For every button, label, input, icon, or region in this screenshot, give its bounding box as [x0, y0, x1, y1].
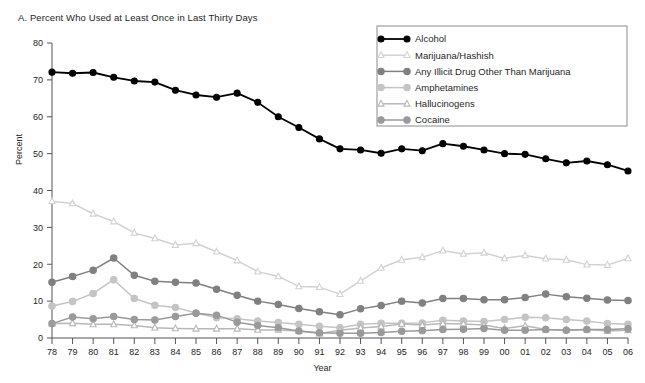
- x-tick-label: 94: [376, 347, 386, 357]
- x-tick-label: 80: [88, 347, 98, 357]
- data-point-marker: [296, 283, 302, 289]
- data-point-marker: [522, 314, 528, 320]
- data-point-marker: [502, 151, 508, 157]
- data-point-marker: [111, 218, 117, 224]
- data-point-marker: [69, 298, 75, 304]
- data-point-marker: [522, 327, 528, 333]
- data-point-marker: [90, 290, 96, 296]
- data-point-marker: [357, 306, 363, 312]
- data-point-marker: [90, 70, 96, 76]
- x-tick-label: 78: [47, 347, 57, 357]
- data-point-marker: [213, 312, 219, 318]
- data-point-marker: [399, 256, 405, 262]
- y-tick-label: 60: [33, 112, 43, 122]
- data-point-marker: [111, 313, 117, 319]
- data-point-marker: [378, 117, 384, 123]
- x-tick-label: 93: [356, 347, 366, 357]
- x-axis-label: Year: [0, 363, 645, 373]
- data-point-marker: [275, 114, 281, 120]
- data-point-marker: [440, 141, 446, 147]
- data-point-marker: [604, 262, 610, 268]
- data-point-marker: [543, 255, 549, 261]
- data-point-marker: [152, 278, 158, 284]
- data-point-marker: [460, 295, 466, 301]
- y-tick-label: 10: [33, 296, 43, 306]
- data-point-marker: [404, 68, 410, 74]
- data-point-marker: [131, 316, 137, 322]
- data-point-marker: [172, 279, 178, 285]
- data-point-marker: [543, 156, 549, 162]
- data-point-marker: [378, 150, 384, 156]
- data-point-marker: [563, 294, 569, 300]
- series-any-illicit-drug-other-than-marijuana: [49, 255, 631, 318]
- y-tick-label: 70: [33, 75, 43, 85]
- data-point-marker: [604, 297, 610, 303]
- data-point-marker: [234, 90, 240, 96]
- data-point-marker: [131, 78, 137, 84]
- data-point-marker: [316, 330, 322, 336]
- x-tick-label: 91: [314, 347, 324, 357]
- legend-label: Any Illicit Drug Other Than Marijuana: [415, 66, 571, 77]
- data-point-marker: [357, 330, 363, 336]
- data-point-marker: [131, 229, 137, 235]
- data-point-marker: [440, 295, 446, 301]
- data-point-marker: [404, 117, 410, 123]
- data-point-marker: [111, 74, 117, 80]
- data-point-marker: [213, 286, 219, 292]
- data-point-marker: [419, 300, 425, 306]
- data-point-marker: [234, 319, 240, 325]
- series-line: [52, 258, 628, 315]
- data-point-marker: [563, 160, 569, 166]
- data-point-marker: [193, 92, 199, 98]
- data-point-marker: [378, 68, 384, 74]
- y-tick-label: 20: [33, 260, 43, 270]
- data-point-marker: [419, 254, 425, 260]
- data-point-marker: [501, 316, 507, 322]
- x-tick-label: 01: [520, 347, 530, 357]
- x-tick-label: 06: [623, 347, 633, 357]
- x-tick-label: 95: [397, 347, 407, 357]
- x-tick-label: 83: [150, 347, 160, 357]
- y-tick-label: 80: [33, 38, 43, 48]
- data-point-marker: [625, 168, 631, 174]
- data-point-marker: [399, 146, 405, 152]
- data-point-marker: [275, 324, 281, 330]
- data-point-marker: [111, 321, 117, 327]
- x-tick-label: 82: [129, 347, 139, 357]
- x-tick-label: 88: [253, 347, 263, 357]
- data-point-marker: [522, 252, 528, 258]
- x-tick-label: 03: [561, 347, 571, 357]
- data-point-marker: [584, 295, 590, 301]
- x-tick-label: 85: [191, 347, 201, 357]
- data-point-marker: [460, 250, 466, 256]
- data-point-marker: [296, 328, 302, 334]
- data-point-marker: [481, 296, 487, 302]
- data-point-marker: [563, 256, 569, 262]
- x-tick-label: 97: [438, 347, 448, 357]
- data-point-marker: [255, 298, 261, 304]
- data-point-marker: [234, 257, 240, 263]
- x-tick-label: 99: [479, 347, 489, 357]
- y-axis-label: Percent: [14, 134, 24, 165]
- data-point-marker: [49, 303, 55, 309]
- data-point-marker: [378, 36, 384, 42]
- data-point-marker: [316, 323, 322, 329]
- data-point-marker: [460, 143, 466, 149]
- x-tick-label: 79: [68, 347, 78, 357]
- data-point-marker: [440, 326, 446, 332]
- data-point-marker: [399, 328, 405, 334]
- data-point-marker: [316, 136, 322, 142]
- data-point-marker: [604, 162, 610, 168]
- data-point-marker: [214, 248, 220, 254]
- data-point-marker: [625, 326, 631, 332]
- data-point-marker: [419, 148, 425, 154]
- data-point-marker: [49, 320, 55, 326]
- data-point-marker: [193, 310, 199, 316]
- chart-figure: A. Percent Who Used at Least Once in Las…: [0, 0, 645, 383]
- data-point-marker: [172, 325, 178, 331]
- data-point-marker: [584, 261, 590, 267]
- x-tick-label: 89: [273, 347, 283, 357]
- data-point-marker: [275, 301, 281, 307]
- data-point-marker: [275, 273, 281, 279]
- data-point-marker: [399, 298, 405, 304]
